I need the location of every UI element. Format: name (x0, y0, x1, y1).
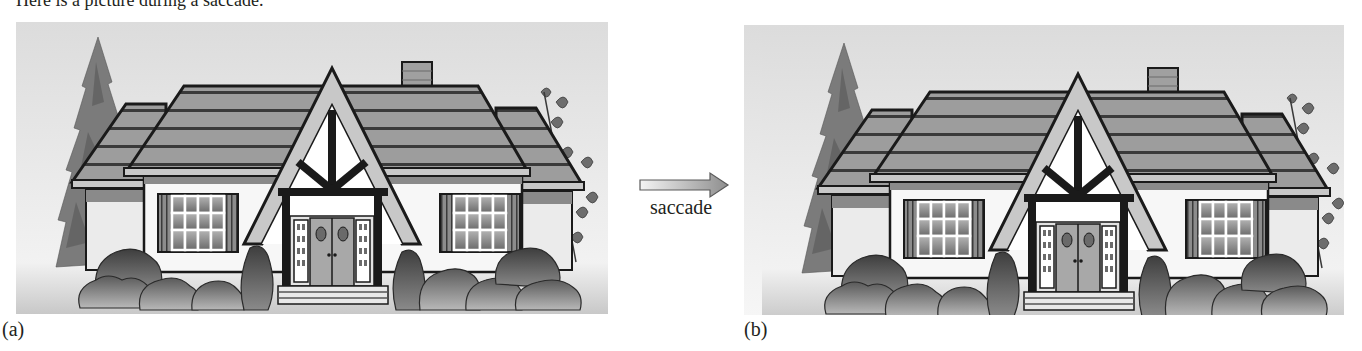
panel-a-label: (a) (2, 318, 24, 341)
panel-a-image (16, 22, 608, 314)
house-illustration-shifted (744, 25, 1344, 315)
panel-b-label: (b) (744, 318, 767, 341)
house-illustration (16, 22, 608, 314)
figure-caption: Here is a picture during a saccade. (16, 0, 263, 11)
saccade-label: saccade (650, 196, 712, 219)
panel-b-image (744, 25, 1344, 315)
